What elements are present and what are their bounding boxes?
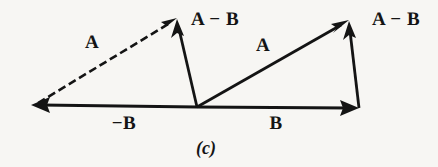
label-vector-a-minus-b-right: A − B	[372, 10, 420, 29]
vector-a-left	[38, 18, 177, 103]
label-vector-minus-b: −B	[112, 114, 137, 133]
label-vector-a-left: A	[85, 33, 99, 52]
label-vector-a-right: A	[256, 36, 270, 55]
vector-a-left-shaft	[38, 23, 170, 103]
label-vector-a-minus-b-left: A − B	[191, 10, 239, 29]
figure-caption: (c)	[196, 139, 216, 157]
label-vector-b: B	[269, 114, 282, 133]
vector-a-minus-b-right-shaft	[350, 31, 359, 108]
vector-a-right	[197, 20, 349, 107]
vector-a-minus-b-left-arrowhead	[171, 19, 184, 38]
vector-b-shaft	[197, 107, 349, 108]
vector-minus-b	[31, 97, 197, 113]
vector-minus-b-shaft	[41, 105, 197, 107]
vector-a-minus-b-right	[343, 21, 359, 108]
vector-a-minus-b-left-shaft	[179, 29, 197, 107]
vector-a-minus-b-left	[171, 19, 197, 107]
vector-diagram-figure: A A − B A A − B −B B (c)	[0, 0, 438, 167]
